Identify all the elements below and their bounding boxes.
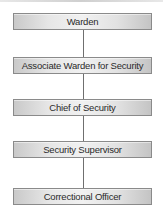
node-security-supervisor: Security Supervisor — [13, 141, 152, 158]
node-label: Correctional Officer — [44, 191, 122, 202]
node-associate-warden: Associate Warden for Security — [13, 57, 152, 74]
node-label: Warden — [67, 16, 99, 27]
node-correctional-officer: Correctional Officer — [13, 188, 152, 205]
connector-line — [83, 30, 84, 57]
node-label: Associate Warden for Security — [22, 60, 144, 71]
node-chief-of-security: Chief of Security — [13, 99, 152, 116]
top-border-line — [0, 0, 163, 2]
connector-line — [83, 74, 84, 99]
node-label: Chief of Security — [49, 102, 115, 113]
connector-line — [83, 158, 84, 188]
connector-line — [83, 116, 84, 141]
node-warden: Warden — [13, 13, 152, 30]
node-label: Security Supervisor — [43, 144, 122, 155]
